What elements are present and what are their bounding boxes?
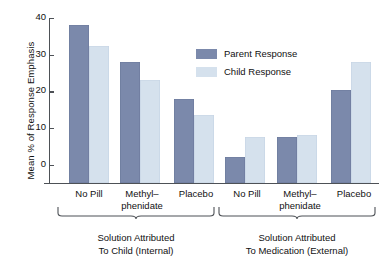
group-caption-internal-line1: Solution Attributed (57, 232, 215, 245)
y-tick-0: 0 (49, 165, 54, 166)
bar-parent-response-1 (120, 62, 140, 183)
y-axis-title: Mean % of Response Emphasis (25, 21, 36, 201)
x-tick-label-2-line1: Placebo (167, 188, 225, 200)
x-tick-label-5-line1: Placebo (325, 188, 383, 200)
group-caption-internal-line2: To Child (Internal) (57, 245, 215, 258)
bar-chart-figure: Mean % of Response Emphasis 40 30 20 10 … (0, 0, 386, 271)
bar-child-response-2 (194, 115, 214, 183)
plot-area: 40 30 20 10 0 No Pill Methyl– phenidate … (49, 18, 379, 183)
y-tick-40: 40 (49, 18, 54, 19)
x-tick-label-3-line1: No Pill (219, 188, 275, 200)
group-brace-external (218, 207, 376, 219)
group-brace-internal (57, 207, 215, 219)
group-caption-external: Solution Attributed To Medication (Exter… (210, 232, 384, 257)
group-caption-external-line2: To Medication (External) (210, 245, 384, 258)
bar-parent-response-0 (69, 25, 89, 183)
x-tick-label-3: No Pill (219, 188, 275, 200)
y-tick-label-10: 10 (35, 121, 46, 132)
x-tick-label-5: Placebo (325, 188, 383, 200)
bar-parent-response-2 (174, 99, 194, 183)
bar-child-response-4 (297, 135, 317, 183)
x-tick-label-2: Placebo (167, 188, 225, 200)
x-tick-label-1-line1: Methyl– (110, 188, 174, 200)
legend-swatch-parent-response (196, 49, 217, 59)
bar-child-response-0 (89, 46, 109, 184)
bar-child-response-1 (140, 80, 160, 183)
y-tick-10: 10 (49, 128, 54, 129)
x-axis-line (44, 183, 379, 184)
legend-swatch-child-response (196, 67, 217, 77)
y-tick-label-30: 30 (35, 48, 46, 59)
legend: Parent Response Child Response (196, 46, 297, 82)
y-tick-label-20: 20 (35, 84, 46, 95)
group-caption-external-line1: Solution Attributed (210, 232, 384, 245)
bar-child-response-5 (351, 62, 371, 183)
x-tick-label-0-line1: No Pill (61, 188, 117, 200)
x-tick-label-0: No Pill (61, 188, 117, 200)
legend-item-parent-response: Parent Response (196, 46, 297, 61)
bar-parent-response-3 (225, 157, 245, 183)
y-tick-30: 30 (49, 55, 54, 56)
bar-parent-response-5 (331, 90, 351, 184)
y-tick-20: 20 (49, 91, 54, 92)
y-axis-line (49, 18, 50, 183)
x-tick-label-4-line1: Methyl– (268, 188, 332, 200)
bar-child-response-3 (245, 137, 265, 183)
bar-parent-response-4 (277, 137, 297, 183)
legend-label-child-response: Child Response (224, 66, 291, 77)
y-tick-label-0: 0 (41, 158, 46, 169)
legend-label-parent-response: Parent Response (224, 48, 297, 59)
legend-item-child-response: Child Response (196, 64, 297, 79)
group-caption-internal: Solution Attributed To Child (Internal) (57, 232, 215, 257)
y-tick-label-40: 40 (35, 11, 46, 22)
